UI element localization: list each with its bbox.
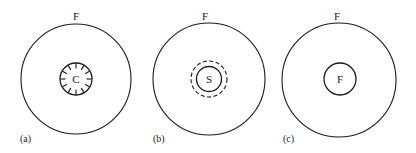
panel-a-inner-label: C bbox=[72, 73, 79, 85]
panel-c-caption: (c) bbox=[283, 133, 294, 145]
panel-c-outer-label: F bbox=[334, 10, 340, 22]
panel-b: F S (b) bbox=[153, 10, 265, 145]
panel-a: F C (a) bbox=[20, 10, 131, 145]
panel-c: F F (c) bbox=[282, 10, 396, 145]
panel-b-outer-label: F bbox=[202, 10, 208, 22]
diagram-canvas: F C (a) F S (b) F F bbox=[0, 0, 416, 153]
panel-c-inner-label: F bbox=[337, 73, 343, 85]
panel-a-outer-label: F bbox=[73, 10, 79, 22]
panel-a-caption: (a) bbox=[20, 133, 31, 145]
panel-b-inner-label: S bbox=[206, 73, 212, 85]
panel-b-caption: (b) bbox=[153, 133, 165, 145]
